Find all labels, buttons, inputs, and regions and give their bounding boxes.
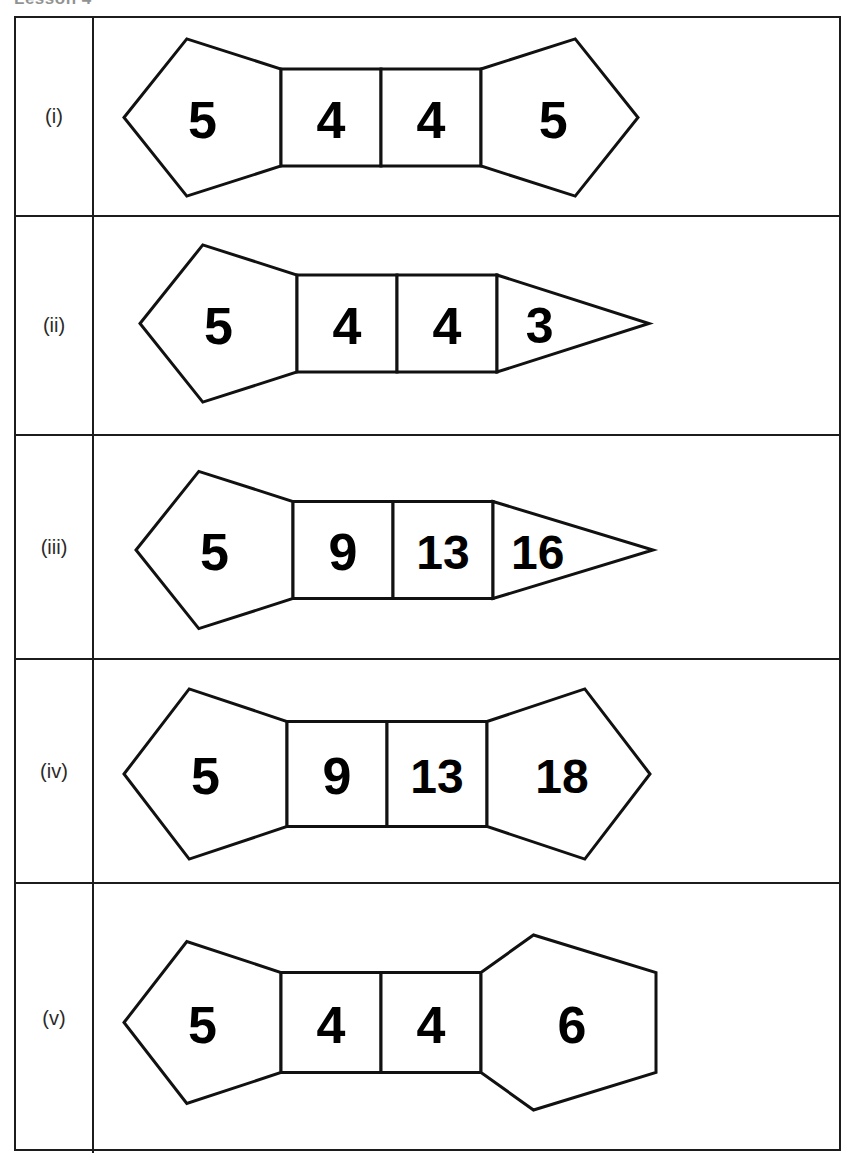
shape-triangle [497,275,649,372]
shape-sequence-table: (i)5445(ii)5443(iii)591316(iv)591318(v)5… [14,16,841,1151]
shape-chain-ii: 5443 [94,217,840,436]
page-heading: Lesson 4 [14,0,92,9]
row-label: (v) [42,1007,65,1030]
row-figure-cell: 5443 [94,217,839,434]
row-figure-cell: 5445 [94,18,839,215]
row-figure-cell: 591318 [94,660,839,882]
shape-value: 4 [417,996,446,1054]
table-row: (v)5446 [16,884,839,1153]
shape-value: 4 [317,91,346,149]
shape-value: 6 [558,996,587,1054]
shape-value: 5 [188,996,217,1054]
shape-value: 13 [416,526,469,579]
shape-chain-iii: 591316 [94,436,840,660]
shape-value: 5 [539,91,568,149]
shape-chain-v: 5446 [94,884,840,1153]
shape-value: 5 [200,523,229,581]
shape-value: 3 [526,298,554,354]
row-label-cell: (ii) [16,217,94,434]
shape-value: 16 [511,526,564,579]
shape-chain-iv: 591318 [94,660,840,884]
table-row: (i)5445 [16,18,839,217]
row-label-cell: (iv) [16,660,94,882]
row-label-cell: (i) [16,18,94,215]
row-figure-cell: 5446 [94,884,839,1153]
table-row: (iii)591316 [16,436,839,660]
shape-value: 18 [535,750,588,803]
shape-value: 4 [433,297,462,355]
shape-value: 4 [417,91,446,149]
row-label: (iv) [40,760,68,783]
row-label: (i) [45,105,63,128]
table-row: (iv)591318 [16,660,839,884]
shape-value: 9 [323,747,352,805]
shape-value: 5 [204,297,233,355]
shape-chain-i: 5445 [94,18,840,217]
shape-value: 5 [191,747,220,805]
shape-value: 4 [317,996,346,1054]
table-row: (ii)5443 [16,217,839,436]
shape-value: 4 [333,297,362,355]
shape-value: 5 [188,91,217,149]
row-label-cell: (iii) [16,436,94,658]
row-label: (ii) [43,314,65,337]
shape-value: 9 [329,523,358,581]
row-label: (iii) [41,536,68,559]
page-root: Lesson 4 (i)5445(ii)5443(iii)591316(iv)5… [0,0,856,1173]
row-label-cell: (v) [16,884,94,1153]
shape-value: 13 [410,750,463,803]
row-figure-cell: 591316 [94,436,839,658]
